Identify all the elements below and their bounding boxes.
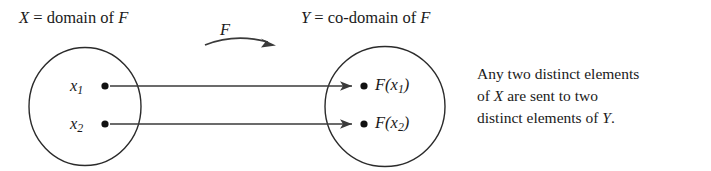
caption-line-2-text-b: are sent to two [503,87,598,104]
caption-line-2-text-a: of [477,87,494,104]
domain-function-symbol: F [118,8,128,27]
codomain-element-prefix-2: F( [375,113,391,132]
domain-variable: X [19,8,29,27]
codomain-dot-2 [360,120,367,127]
caption-line-1: Any two distinct elements [477,63,705,85]
codomain-element-base-1: x [391,75,398,94]
domain-label-text: = domain of [29,8,118,27]
codomain-element-base-2: x [391,113,398,132]
function-arrow-label: F [220,22,230,39]
domain-element-label-1: x1 [70,78,83,97]
domain-element-label-2: x2 [70,116,83,135]
codomain-element-prefix-1: F( [375,75,391,94]
caption-variable-y: Y [602,109,611,126]
function-curved-arrow [205,38,268,45]
codomain-dot-1 [360,82,367,89]
caption-line-2: of X are sent to two [477,85,705,107]
domain-dot-1 [101,82,108,89]
domain-dot-2 [101,120,108,127]
diagram-caption: Any two distinct elements of X are sent … [477,63,705,129]
codomain-variable: Y [301,8,310,27]
domain-element-sub-1: 1 [77,83,83,97]
function-arrowhead [261,39,276,48]
domain-set-label: X = domain of F [19,10,128,27]
caption-line-3-text-a: distinct elements of [477,109,602,126]
codomain-label-text: = co-domain of [310,8,420,27]
codomain-element-suffix-1: ) [404,75,410,94]
caption-line-3: distinct elements of Y. [477,107,705,129]
caption-variable-x: X [494,87,503,104]
codomain-set-label: Y = co-domain of F [301,10,430,27]
function-diagram-figure: X = domain of F Y = co-domain of F F x1 … [0,0,711,171]
codomain-element-label-2: F(x2) [375,115,409,134]
codomain-ellipse [325,47,445,167]
caption-line-3-text-b: . [611,109,615,126]
codomain-element-suffix-2: ) [404,113,410,132]
domain-ellipse [29,48,141,166]
codomain-function-symbol: F [420,8,430,27]
domain-element-sub-2: 2 [77,121,83,135]
codomain-element-label-1: F(x1) [375,77,409,96]
